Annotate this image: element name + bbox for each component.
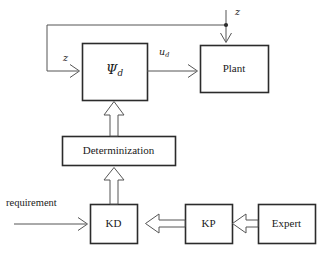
block-diagram: Ψd Plant Determinization KD KP Expert z …	[0, 0, 323, 257]
edge-determinization-to-psi-d	[104, 102, 124, 137]
node-label-plant: Plant	[200, 45, 268, 92]
z-feedback-symbol: z	[63, 52, 68, 63]
node-label-kd: KD	[90, 204, 137, 243]
edge-requirement-to-kd	[14, 218, 88, 231]
junction-feedback-tap	[224, 23, 228, 27]
edge-expert-to-kp	[233, 214, 259, 233]
edge-label-u-d: ud	[159, 46, 169, 59]
node-label-determinization: Determinization	[62, 136, 175, 165]
node-label-expert: Expert	[258, 204, 315, 243]
edge-psi-to-plant	[147, 65, 198, 78]
psi-symbol: Ψ	[106, 62, 117, 77]
z-top-symbol: z	[235, 6, 240, 17]
edge-kd-to-determinization	[104, 168, 124, 205]
edge-kp-to-kd	[146, 214, 186, 233]
u-subscript: d	[165, 51, 169, 59]
edge-label-z-top: z	[235, 6, 240, 17]
edge-label-z-feedback: z	[63, 52, 68, 63]
edge-label-requirement: requirement	[6, 197, 57, 208]
psi-subscript: d	[117, 69, 123, 79]
node-label-psi-d: Ψd	[82, 43, 147, 100]
node-label-kp: KP	[185, 204, 232, 243]
